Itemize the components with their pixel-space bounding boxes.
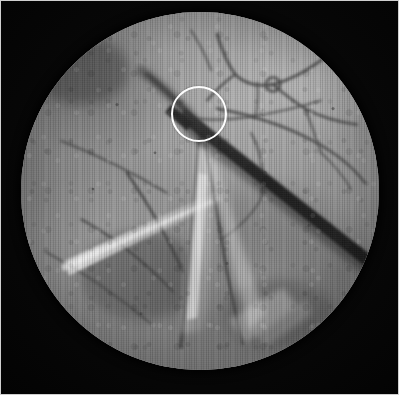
- black-surround: [1, 1, 398, 394]
- figure-root: [0, 0, 399, 395]
- aperture-vignette: [21, 12, 379, 370]
- circular-field-of-view: [21, 12, 379, 370]
- roi-annotation-circle: [171, 86, 227, 142]
